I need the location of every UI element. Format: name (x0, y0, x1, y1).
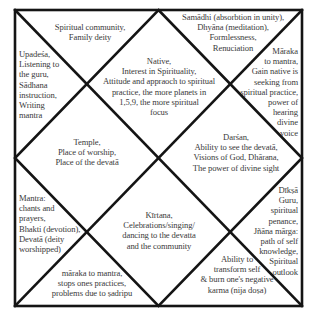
house-9-line: penance, (224, 216, 298, 226)
house-5-line: chants and (19, 203, 95, 213)
house-9-line: Dīkṣā (224, 185, 298, 195)
house-7-line: dancing to the devatta (104, 230, 214, 240)
house-10-line: Ability to see the devatā, (180, 142, 292, 152)
house-2-line: Spiritual community, (30, 22, 150, 32)
house-1-line: 1,5,9, the more spiritual (93, 97, 225, 107)
house-6-line: stops ones practices, (36, 278, 148, 288)
house-7-kirtana: Kīrtana, Celebrations/singing/ dancing t… (104, 210, 214, 251)
house-2-spiritual-community: Spiritual community, Family deity (30, 22, 150, 42)
house-3-line: instruction, (19, 90, 79, 100)
house-10-line: Darśan, (180, 132, 292, 142)
house-1-line: focus (93, 107, 225, 117)
house-3-line: Listening to (19, 59, 79, 69)
house-6-line: problems due to ṣadripu (36, 288, 148, 298)
house-3-line: Upadeśa, (19, 49, 79, 59)
house-5-line: Mantra: (19, 193, 95, 203)
house-8-transform-self: Ability to transform self & burn one's n… (190, 254, 284, 295)
house-7-line: Celebrations/singing/ (104, 220, 214, 230)
house-12-line: Samādhi (absorbtion in unity), (172, 12, 294, 22)
house-3-line: the guru, (19, 69, 79, 79)
house-6-maraka-to-mantra: māraka to mantra, stops ones practices, … (36, 268, 148, 299)
house-2-line: Family deity (30, 32, 150, 42)
house-11-line: spiritual practice, (228, 87, 298, 97)
house-11-line: power of (228, 97, 298, 107)
house-1-native: Native, Interest in Spirituality, Attitu… (93, 56, 225, 117)
house-5-mantra: Mantra: chants and prayers, Bhakti (devo… (19, 193, 95, 254)
house-1-line: Attitude and appraoch to spiritual (93, 76, 225, 86)
house-1-line: practice, the more planets in (93, 87, 225, 97)
house-3-line: Writing (19, 100, 79, 110)
house-4-line: Place of worship, (37, 147, 137, 157)
house-11-line: Māraka (228, 46, 298, 56)
house-4-line: Place of the devatā (37, 157, 137, 167)
house-5-line: Devatā (deity (19, 234, 95, 244)
house-9-line: spiritual (224, 205, 298, 215)
house-9-line: path of self (224, 236, 298, 246)
house-11-line: to mantra, (228, 56, 298, 66)
house-8-line: transform self (190, 264, 284, 274)
house-11-line: Gain native is (228, 66, 298, 76)
house-7-line: Kīrtana, (104, 210, 214, 220)
house-5-line: Bhakti (devotion), (19, 224, 95, 234)
house-10-line: Visions of God, Dhārana, (180, 152, 292, 162)
house-11-line: seeking from (228, 77, 298, 87)
house-3-line: Sādhana (19, 80, 79, 90)
house-1-line: Native, (93, 56, 225, 66)
house-9-line: Jñāna mārga: (224, 226, 298, 236)
house-11-line: divine (228, 117, 298, 127)
house-9-line: Guru, (224, 195, 298, 205)
house-8-line: & burn one's negative (190, 274, 284, 284)
house-8-line: karma (nija doṣa) (190, 285, 284, 295)
house-4-temple: Temple, Place of worship, Place of the d… (37, 137, 137, 168)
house-5-line: worshipped) (19, 244, 95, 254)
house-10-line: The power of divine sight (180, 163, 292, 173)
house-12-line: Dhyāna (meditation), (172, 22, 294, 32)
house-4-line: Temple, (37, 137, 137, 147)
house-11-maraka: Māraka to mantra, Gain native is seeking… (228, 46, 298, 138)
house-10-darsan: Darśan, Ability to see the devatā, Visio… (180, 132, 292, 173)
house-12-line: Formlessness, (172, 32, 294, 42)
house-1-line: Interest in Spirituality, (93, 66, 225, 76)
house-3-line: mantra (19, 110, 79, 120)
house-7-line: and the community (104, 241, 214, 251)
house-11-line: hearing (228, 107, 298, 117)
house-8-line: Ability to (190, 254, 284, 264)
house-5-line: prayers, (19, 213, 95, 223)
house-6-line: māraka to mantra, (36, 268, 148, 278)
house-3-upadesa: Upadeśa, Listening to the guru, Sādhana … (19, 49, 79, 120)
